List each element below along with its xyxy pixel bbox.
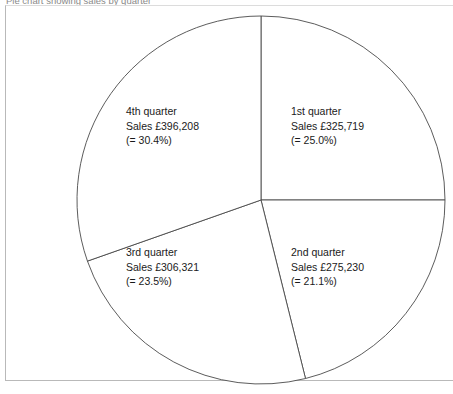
pie-label-4th-quarter-name: 4th quarter <box>126 104 199 119</box>
pie-chart <box>0 0 453 394</box>
pie-label-3rd-quarter-sales: Sales £306,321 <box>126 260 199 275</box>
pie-label-3rd-quarter-pct: (= 23.5%) <box>126 274 199 289</box>
pie-label-1st-quarter-pct: (= 25.0%) <box>291 133 364 148</box>
pie-label-2nd-quarter-pct: (= 21.1%) <box>291 274 364 289</box>
pie-label-3rd-quarter-name: 3rd quarter <box>126 245 199 260</box>
pie-label-4th-quarter: 4th quarter Sales £396,208 (= 30.4%) <box>126 104 199 148</box>
pie-label-2nd-quarter-name: 2nd quarter <box>291 245 364 260</box>
pie-label-3rd-quarter: 3rd quarter Sales £306,321 (= 23.5%) <box>126 245 199 289</box>
pie-label-4th-quarter-pct: (= 30.4%) <box>126 133 199 148</box>
pie-slice-group <box>77 16 445 384</box>
pie-label-1st-quarter: 1st quarter Sales £325,719 (= 25.0%) <box>291 104 364 148</box>
pie-label-1st-quarter-name: 1st quarter <box>291 104 364 119</box>
pie-label-4th-quarter-sales: Sales £396,208 <box>126 119 199 134</box>
pie-label-2nd-quarter: 2nd quarter Sales £275,230 (= 21.1%) <box>291 245 364 289</box>
pie-label-1st-quarter-sales: Sales £325,719 <box>291 119 364 134</box>
pie-label-2nd-quarter-sales: Sales £275,230 <box>291 260 364 275</box>
